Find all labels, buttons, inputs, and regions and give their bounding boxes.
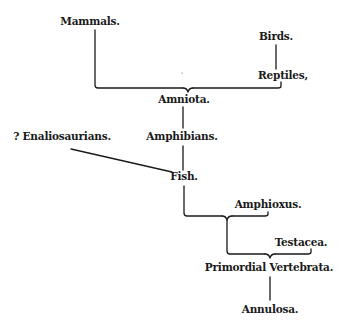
evolution-tree-diagram: Mammals. Birds. Reptiles, Amniota. Amphi… (0, 0, 340, 327)
edge-amphioxus-primordial (232, 212, 268, 216)
node-testacea: Testacea. (275, 236, 328, 248)
brace-amniota (183, 88, 193, 92)
node-primordial-vertebrata: Primordial Vertebrata. (205, 261, 333, 273)
node-reptiles: Reptiles, (258, 69, 308, 81)
node-amniota: Amniota. (157, 93, 210, 105)
edge-enaliosaurians-fish (71, 149, 172, 172)
node-fish: Fish. (170, 170, 198, 182)
node-mammals: Mammals. (60, 15, 119, 27)
node-enaliosaurians: ? Enaliosaurians. (13, 130, 111, 142)
edge-upper-to-lower-brace (227, 220, 265, 254)
brace-vertebrata-lower (265, 254, 275, 258)
node-amphibians: Amphibians. (145, 130, 217, 142)
node-amphioxus: Amphioxus. (234, 198, 302, 210)
edge-fish-primordial (184, 186, 222, 216)
edge-mammals-amniota (95, 30, 183, 88)
edge-reptiles-amniota (193, 82, 281, 88)
edge-testacea-primordial (275, 249, 311, 254)
node-annulosa: Annulosa. (241, 303, 299, 315)
speck (181, 72, 182, 73)
node-birds: Birds. (259, 30, 293, 42)
